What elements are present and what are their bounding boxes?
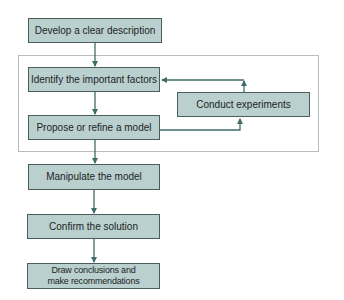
node-label: Develop a clear description	[35, 25, 156, 37]
node-propose-model: Propose or refine a model	[28, 115, 160, 140]
node-develop-description: Develop a clear description	[28, 18, 162, 43]
node-label-line2: make recommendations	[47, 276, 139, 287]
node-draw-conclusions: Draw conclusions and make recommendation…	[27, 263, 160, 289]
node-confirm-solution: Confirm the solution	[27, 214, 160, 239]
node-label-line1: Draw conclusions and	[51, 265, 135, 276]
node-label: Conduct experiments	[196, 99, 291, 111]
node-identify-factors: Identify the important factors	[28, 67, 160, 92]
node-conduct-experiments: Conduct experiments	[177, 92, 310, 117]
node-label: Propose or refine a model	[36, 122, 151, 134]
node-manipulate-model: Manipulate the model	[28, 164, 160, 190]
node-label: Confirm the solution	[49, 221, 138, 233]
node-label: Manipulate the model	[46, 171, 142, 183]
node-label: Identify the important factors	[31, 74, 157, 86]
